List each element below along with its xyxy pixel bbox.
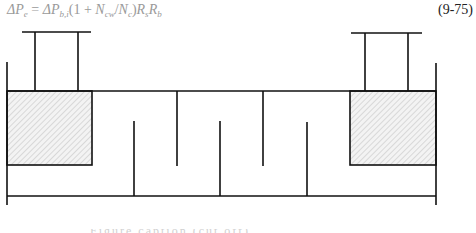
heat-exchanger-diagram — [0, 0, 476, 233]
right-nozzle — [351, 33, 422, 91]
left-end-zone — [7, 91, 92, 165]
figure-caption-cutoff: Figure caption (cut off) — [90, 229, 380, 233]
left-nozzle — [22, 32, 91, 91]
right-end-zone — [350, 91, 436, 165]
